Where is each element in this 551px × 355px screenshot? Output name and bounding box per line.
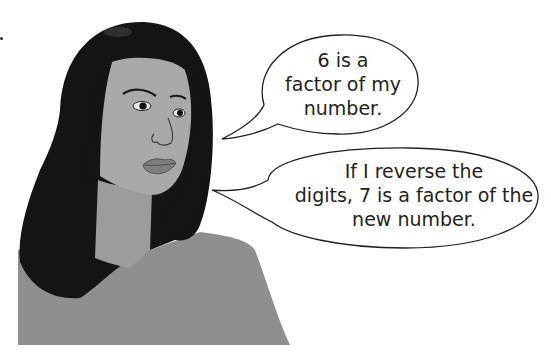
stray-dot-marker (0, 37, 3, 40)
face (99, 58, 191, 195)
bubble-2-line-1: If I reverse the (292, 159, 536, 183)
bubble-2-line-3: new number. (292, 207, 536, 231)
bubble-1-line-2: factor of my (268, 72, 418, 96)
bubble-2-line-2: digits, 7 is a factor of the (292, 183, 536, 207)
speech-bubble-1-text: 6 is a factor of my number. (268, 48, 418, 120)
iris-left (139, 102, 146, 109)
iris-right (177, 110, 183, 116)
bubble-1-line-3: number. (268, 96, 418, 120)
hair-highlight (104, 27, 132, 37)
bubble-1-line-1: 6 is a (268, 48, 418, 72)
speech-bubble-2-text: If I reverse the digits, 7 is a factor o… (292, 159, 536, 231)
